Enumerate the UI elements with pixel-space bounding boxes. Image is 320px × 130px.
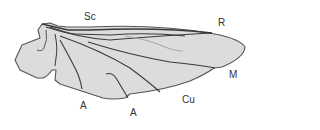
label-anal-2: A bbox=[130, 108, 137, 118]
label-media: M bbox=[229, 70, 237, 80]
label-subcosta: Sc bbox=[84, 12, 96, 22]
label-anal-1: A bbox=[80, 101, 87, 111]
label-radius: R bbox=[218, 18, 225, 28]
label-cubitus: Cu bbox=[182, 95, 195, 105]
